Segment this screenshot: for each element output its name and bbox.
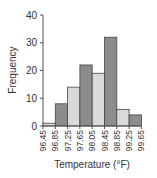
histogram-bar — [117, 109, 129, 126]
y-axis: 010203040 — [26, 10, 43, 132]
y-tick-label: 0 — [31, 121, 37, 132]
histogram-bar — [129, 115, 141, 126]
x-tick-label: 98.05 — [87, 130, 97, 152]
y-tick-label: 40 — [26, 10, 38, 21]
y-tick-label: 20 — [26, 65, 38, 76]
x-tick-label: 97.25 — [63, 130, 73, 152]
histogram-bar — [55, 104, 67, 126]
x-tick-label: 97.65 — [75, 130, 85, 152]
y-tick-label: 30 — [26, 37, 38, 48]
x-tick-label: 96.85 — [50, 130, 60, 152]
y-tick-label: 10 — [26, 93, 38, 104]
x-tick-label: 99.25 — [124, 130, 134, 152]
x-tick-label: 98.85 — [112, 130, 122, 152]
histogram-bar — [68, 87, 80, 126]
x-tick-label: 96.45 — [38, 130, 48, 152]
y-axis-label: Frequency — [7, 46, 18, 93]
x-tick-label: 99.65 — [136, 130, 146, 152]
x-axis: 96.4596.8597.2597.6598.0598.4598.8599.25… — [38, 126, 146, 151]
bars — [43, 37, 141, 126]
x-tick-label: 98.45 — [100, 130, 110, 152]
histogram-bar — [105, 37, 117, 126]
histogram-bar — [80, 65, 92, 126]
histogram-bar — [92, 73, 104, 126]
x-axis-label: Temperature (°F) — [54, 159, 130, 170]
histogram-chart: 010203040 96.4596.8597.2597.6598.0598.45… — [0, 0, 157, 178]
